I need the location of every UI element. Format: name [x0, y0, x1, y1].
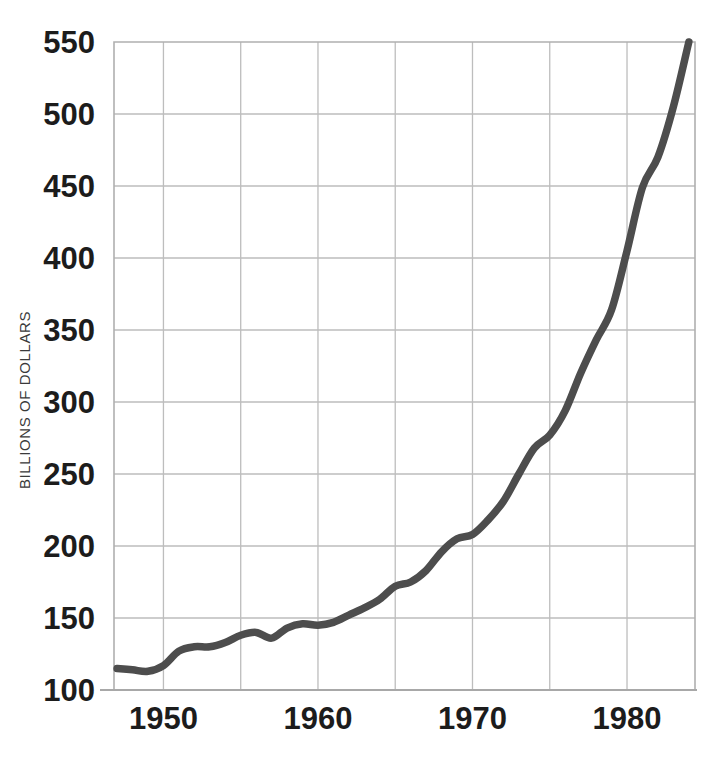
x-tick-label: 1980 — [593, 701, 662, 736]
x-tick-label: 1950 — [129, 701, 198, 736]
y-tick-label: 100 — [43, 673, 95, 708]
y-tick-label: 200 — [43, 529, 95, 564]
vertical-gridlines — [163, 42, 627, 690]
y-tick-label: 550 — [43, 25, 95, 60]
x-tick-label: 1960 — [283, 701, 352, 736]
plot-frame — [100, 42, 697, 690]
chart-container: 100150200250300350400450500550 195019601… — [0, 0, 726, 759]
x-tick-label: 1970 — [438, 701, 507, 736]
y-tick-label: 400 — [43, 241, 95, 276]
y-tick-label: 450 — [43, 169, 95, 204]
y-tick-label: 500 — [43, 97, 95, 132]
horizontal-gridlines — [114, 114, 695, 618]
data-series — [117, 42, 689, 671]
y-tick-label: 250 — [43, 457, 95, 492]
y-tick-label: 150 — [43, 601, 95, 636]
x-axis-tick-labels: 1950196019701980 — [129, 701, 662, 736]
y-tick-label: 300 — [43, 385, 95, 420]
y-axis-tick-labels: 100150200250300350400450500550 — [43, 25, 95, 708]
y-axis-title: BILLIONS OF DOLLARS — [16, 311, 33, 489]
series-line — [117, 42, 689, 671]
line-chart: 100150200250300350400450500550 195019601… — [0, 0, 726, 759]
y-tick-label: 350 — [43, 313, 95, 348]
